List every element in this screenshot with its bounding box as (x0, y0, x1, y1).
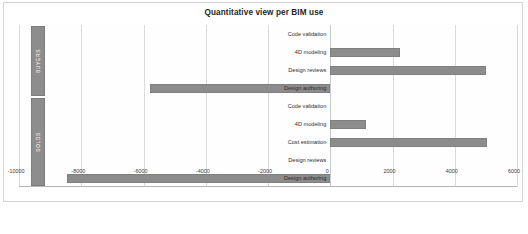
bar (330, 66, 486, 75)
category-label: 4D modeling (293, 120, 328, 128)
group-label-bar: BUYERS (31, 26, 45, 96)
x-tick-label: -6000 (134, 168, 148, 174)
category-label: Design authoring (282, 174, 328, 182)
category-label: Design reviews (286, 156, 328, 164)
bar (330, 138, 487, 147)
chart-frame: Quantitative view per BIM use Code valid… (3, 2, 523, 202)
x-tick-label: -4000 (196, 168, 210, 174)
category-label: 4D modeling (293, 48, 328, 56)
x-tick-label: 6000 (508, 168, 520, 174)
group-label-text: BUYERS (35, 49, 41, 73)
bar (330, 120, 366, 129)
x-tick-label: -2000 (258, 168, 272, 174)
category-label: Code validation (286, 102, 329, 110)
category-label: Code validation (286, 30, 329, 38)
gridline (144, 25, 145, 187)
gridline (206, 25, 207, 187)
gridline (268, 25, 269, 187)
plot-area: Code validation4D modelingDesign reviews… (19, 25, 517, 187)
category-label: Design authoring (282, 84, 328, 92)
x-tick-label: -8000 (71, 168, 85, 174)
group-label-text: SOLDS (35, 132, 41, 152)
group-label-bar: SOLDS (31, 98, 45, 186)
gridline (19, 25, 20, 187)
x-tick-label: -10000 (8, 168, 25, 174)
gridline (455, 25, 456, 187)
x-tick-label: 0 (326, 168, 329, 174)
chart-title: Quantitative view per BIM use (4, 8, 524, 17)
gridline (81, 25, 82, 187)
category-label: Design reviews (286, 66, 328, 74)
x-tick-label: 4000 (446, 168, 458, 174)
category-label: Cost estimation (286, 138, 329, 146)
x-tick-label: 2000 (384, 168, 396, 174)
x-axis-line (19, 186, 517, 187)
gridline (517, 25, 518, 187)
bar (330, 48, 400, 57)
